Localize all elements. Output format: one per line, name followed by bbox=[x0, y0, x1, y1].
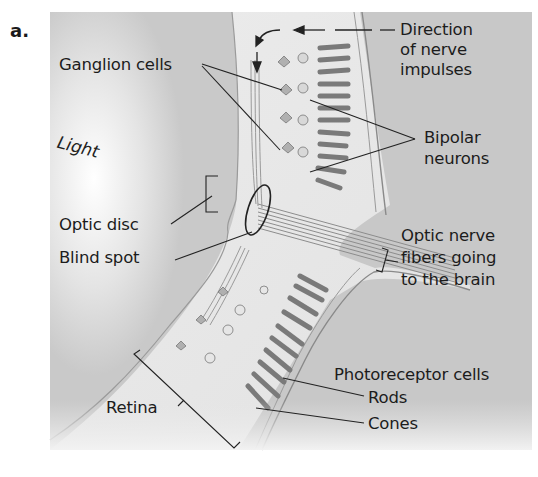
label-direction-line2: of nerve bbox=[400, 40, 467, 59]
label-optic-nerve-line1: Optic nerve bbox=[401, 226, 495, 245]
label-photoreceptor-cells: Photoreceptor cells bbox=[334, 365, 489, 384]
panel-letter: a. bbox=[10, 20, 29, 41]
label-bipolar-line2: neurons bbox=[424, 149, 489, 168]
label-ganglion-cells: Ganglion cells bbox=[59, 55, 172, 74]
label-direction-line1: Direction bbox=[400, 20, 473, 39]
label-blind-spot: Blind spot bbox=[59, 248, 139, 267]
label-optic-nerve-line2: fibers going bbox=[401, 248, 496, 267]
label-cones: Cones bbox=[368, 414, 418, 433]
label-optic-disc: Optic disc bbox=[59, 215, 139, 234]
label-retina: Retina bbox=[106, 398, 157, 417]
label-optic-nerve-line3: to the brain bbox=[401, 270, 495, 289]
label-direction-line3: impulses bbox=[400, 60, 472, 79]
label-rods: Rods bbox=[368, 388, 407, 407]
label-bipolar-line1: Bipolar bbox=[424, 128, 481, 147]
